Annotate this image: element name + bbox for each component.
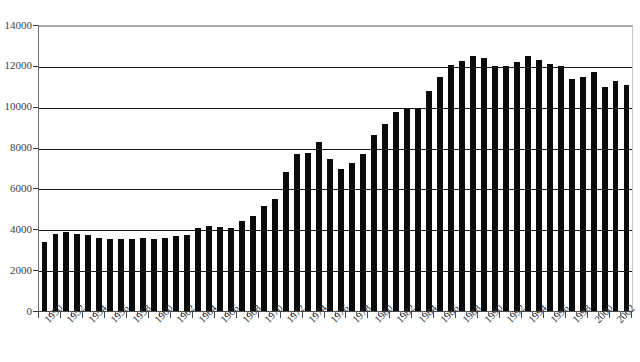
- bar: [547, 64, 553, 312]
- bar: [415, 109, 421, 312]
- bar: [569, 79, 575, 312]
- gridline-6000: [39, 189, 632, 190]
- bar: [85, 235, 91, 312]
- bar: [74, 234, 80, 312]
- y-tick-label-14000: 14000: [0, 20, 32, 31]
- bar: [261, 206, 267, 312]
- bar: [129, 239, 135, 312]
- bar: [96, 238, 102, 312]
- bar: [371, 135, 377, 312]
- bar: [217, 227, 223, 312]
- y-tick-label-6000: 6000: [0, 183, 32, 194]
- plot-area: [38, 25, 633, 312]
- bar: [360, 154, 366, 312]
- bar: [195, 228, 201, 312]
- x-axis-labels: 1950195219541956195819601962196419661968…: [0, 318, 640, 362]
- bar: [151, 239, 157, 312]
- bar: [327, 159, 333, 312]
- bar: [228, 228, 234, 312]
- bar: [459, 61, 465, 312]
- bar: [283, 172, 289, 312]
- bar: [404, 109, 410, 312]
- gridline-12000: [39, 67, 632, 68]
- gridline-4000: [39, 230, 632, 231]
- bar: [294, 154, 300, 312]
- bar: [602, 87, 608, 312]
- gridline-2000: [39, 271, 632, 272]
- bar: [239, 221, 245, 312]
- bar: [173, 236, 179, 312]
- y-tick-label-12000: 12000: [0, 60, 32, 71]
- bar: [305, 153, 311, 312]
- bar: [349, 163, 355, 312]
- y-tick-label-4000: 4000: [0, 224, 32, 235]
- bar: [42, 242, 48, 312]
- bar: [140, 238, 146, 312]
- bar: [536, 60, 542, 312]
- bar: [53, 234, 59, 312]
- bar-series: [39, 26, 632, 312]
- bar: [107, 239, 113, 312]
- gridline-8000: [39, 149, 632, 150]
- bar: [514, 62, 520, 312]
- bar: [393, 112, 399, 312]
- bar: [206, 226, 212, 312]
- bar: [184, 235, 190, 312]
- bar: [382, 124, 388, 312]
- bar: [613, 81, 619, 312]
- bar: [162, 238, 168, 312]
- bar: [437, 77, 443, 312]
- bar: [470, 56, 476, 312]
- bar: [338, 169, 344, 312]
- gridline-10000: [39, 108, 632, 109]
- bar: [448, 65, 454, 312]
- bar: [580, 77, 586, 312]
- bar: [481, 58, 487, 312]
- gridline-14000: [39, 26, 632, 27]
- bar: [316, 142, 322, 312]
- bar: [272, 199, 278, 312]
- bar-chart: 02000400060008000100001200014000 1950195…: [0, 0, 640, 362]
- bar: [525, 56, 531, 312]
- y-tick-label-10000: 10000: [0, 101, 32, 112]
- bar: [63, 232, 69, 312]
- y-tick-label-2000: 2000: [0, 265, 32, 276]
- bar: [118, 239, 124, 312]
- bar: [624, 85, 630, 312]
- bar: [426, 91, 432, 312]
- x-tick-mark: [38, 311, 39, 318]
- y-tick-label-8000: 8000: [0, 142, 32, 153]
